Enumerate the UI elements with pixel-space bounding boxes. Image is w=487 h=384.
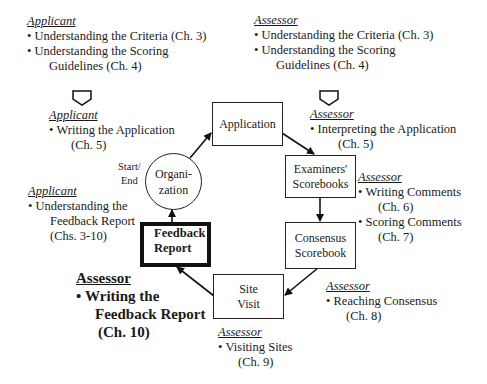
role-label: Assessor: [254, 13, 433, 28]
activity-item-cont: (Chs. 3-10): [28, 229, 135, 244]
annotation-applicant-writing: Applicant Writing the Application (Ch. 5…: [49, 108, 175, 153]
role-label: Assessor: [310, 107, 456, 122]
role-label: Applicant: [27, 14, 206, 29]
node-label-line: Report: [154, 241, 192, 256]
node-feedback-report: Feedback Report: [140, 222, 211, 267]
activity-item-cont: Feedback Report: [28, 214, 135, 229]
activity-item: Understanding the: [28, 199, 135, 214]
activity-item: Writing the: [76, 287, 205, 305]
role-label: Applicant: [28, 184, 135, 199]
role-label: Assessor: [76, 269, 205, 287]
node-application: Application: [212, 102, 283, 146]
node-label-line: Examiners': [294, 162, 347, 177]
node-organization: Organi- zation: [145, 153, 202, 210]
role-label: Assessor: [218, 325, 292, 340]
annotation-applicant-feedback: Applicant Understanding the Feedback Rep…: [28, 184, 135, 244]
activity-item: Understanding the Criteria (Ch. 3): [27, 29, 206, 44]
activity-item-cont: (Ch. 9): [218, 355, 292, 370]
annotation-assessor-site: Assessor Visiting Sites (Ch. 9): [218, 325, 292, 370]
activity-item: Understanding the Criteria (Ch. 3): [254, 28, 433, 43]
role-label: Assessor: [358, 170, 462, 185]
node-label-line: Site: [239, 282, 258, 297]
annotation-assessor-scoring: Assessor Writing Comments (Ch. 6) Scorin…: [358, 170, 462, 245]
node-label-line: Consensus: [295, 231, 346, 246]
node-label-line: Organi-: [155, 166, 192, 182]
activity-item-cont: Guidelines (Ch. 4): [27, 59, 206, 74]
node-label-line: zation: [159, 182, 188, 198]
annotation-assessor-consensus: Assessor Reaching Consensus (Ch. 8): [326, 279, 437, 324]
role-label: Assessor: [326, 279, 437, 294]
activity-item-cont: Feedback Report: [76, 305, 205, 323]
node-label-line: Visit: [237, 297, 260, 312]
node-examiners-scorebooks: Examiners' Scorebooks: [285, 155, 356, 198]
start-end-line: Start/: [118, 160, 141, 174]
activity-item-cont: (Ch. 5): [49, 138, 175, 153]
activity-item: Writing the Application: [49, 123, 175, 138]
activity-item-cont: (Ch. 7): [358, 230, 462, 245]
annotation-assessor-interpreting: Assessor Interpreting the Application (C…: [310, 107, 456, 152]
activity-item-cont: (Ch. 8): [326, 309, 437, 324]
activity-item: Writing Comments: [358, 185, 462, 200]
node-consensus-scorebook: Consensus Scorebook: [285, 222, 356, 269]
role-label: Applicant: [49, 108, 175, 123]
node-label-line: Scorebook: [295, 246, 346, 261]
node-application-label: Application: [219, 117, 276, 132]
activity-item: Scoring Comments: [358, 215, 462, 230]
activity-item-cont: Guidelines (Ch. 4): [254, 58, 433, 73]
activity-item: Reaching Consensus: [326, 294, 437, 309]
activity-item-cont: (Ch. 6): [358, 200, 462, 215]
annotation-assessor-feedback: Assessor Writing the Feedback Report (Ch…: [76, 269, 205, 341]
activity-item-cont: (Ch. 5): [310, 137, 456, 152]
annotation-assessor-top: Assessor Understanding the Criteria (Ch.…: [254, 13, 433, 73]
node-label-line: Feedback: [154, 226, 205, 241]
activity-item: Interpreting the Application: [310, 122, 456, 137]
hollow-down-arrow-icon: [73, 91, 91, 105]
activity-item: Understanding the Scoring: [254, 43, 433, 58]
activity-item-cont: (Ch. 10): [76, 323, 205, 341]
node-label-line: Scorebooks: [293, 177, 349, 192]
annotation-applicant-top: Applicant Understanding the Criteria (Ch…: [27, 14, 206, 74]
activity-item: Visiting Sites: [218, 340, 292, 355]
hollow-down-arrow-icon: [320, 91, 338, 105]
activity-item: Understanding the Scoring: [27, 44, 206, 59]
node-site-visit: Site Visit: [213, 274, 284, 319]
